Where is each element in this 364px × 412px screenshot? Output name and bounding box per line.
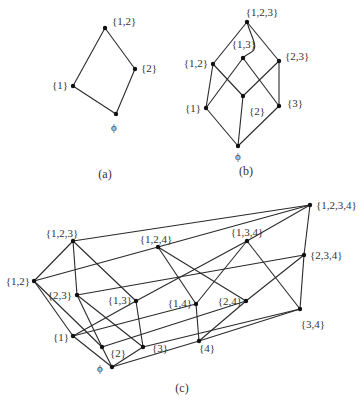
edge-2-to-empty bbox=[116, 69, 135, 114]
node-label-4: {4} bbox=[199, 342, 215, 354]
edge-1-to-empty bbox=[206, 108, 238, 146]
node-label-1-2-3-4: {1,2,3,4} bbox=[316, 199, 357, 211]
node-1-2 bbox=[32, 279, 36, 283]
edge-1-2-4-to-1-2 bbox=[34, 247, 158, 281]
node-label-2-3: {2,3} bbox=[48, 289, 72, 301]
edge-1-2-3-to-1-3 bbox=[73, 241, 136, 301]
node-label-1-2: {1,2} bbox=[112, 15, 136, 27]
node-1-3 bbox=[134, 299, 138, 303]
node-label-2-3-4: {2,3,4} bbox=[310, 249, 343, 261]
node-label-2: {2} bbox=[141, 62, 157, 74]
diagram-c-power-set-4: {1,2,3,4}{1,2,3}{1,2,4}{1,3,4}{2,3,4}{1,… bbox=[6, 199, 357, 395]
node-2-3 bbox=[277, 59, 281, 63]
node-label-1: {1} bbox=[53, 331, 69, 343]
node-2-3-4 bbox=[302, 253, 306, 257]
node-2 bbox=[241, 94, 245, 98]
edge-1-4-to-4 bbox=[196, 304, 199, 341]
edge-1-2-to-1 bbox=[206, 64, 213, 108]
node-1-3 bbox=[241, 56, 245, 60]
edge-2-3-4-to-2-4 bbox=[246, 255, 304, 301]
node-label-1-2-4: {1,2,4} bbox=[140, 233, 173, 245]
node-1 bbox=[204, 106, 208, 110]
edge-2-3-to-2 bbox=[243, 61, 279, 96]
node-label-1-2: {1,2} bbox=[6, 275, 30, 287]
node-2-3 bbox=[75, 293, 79, 297]
caption-c: (c) bbox=[175, 381, 188, 395]
node-label-2: {2} bbox=[110, 347, 126, 359]
node-label-3: {3} bbox=[152, 342, 168, 354]
edge-1-2-to-2 bbox=[105, 28, 135, 69]
node-label-1-4: {1,4} bbox=[168, 297, 192, 309]
node-label-3-4: {3,4} bbox=[301, 318, 325, 330]
node-empty bbox=[110, 365, 114, 369]
node-2-4 bbox=[244, 299, 248, 303]
edge-2-3-4-to-3-4 bbox=[300, 255, 304, 309]
edge-1-3-4-to-3-4 bbox=[247, 241, 300, 309]
node-3 bbox=[277, 104, 281, 108]
node-label-1-3: {1,3} bbox=[108, 294, 132, 306]
node-1-2 bbox=[103, 26, 107, 30]
node-label-1: {1} bbox=[52, 79, 68, 91]
node-empty bbox=[236, 144, 240, 148]
edge-1-2-3-4-to-2-3-4 bbox=[304, 205, 310, 255]
node-label-empty: ϕ bbox=[97, 362, 103, 374]
node-label-2-3: {2,3} bbox=[285, 50, 309, 62]
node-label-1-3: {1,3} bbox=[232, 38, 256, 50]
node-3-4 bbox=[298, 307, 302, 311]
node-1 bbox=[71, 84, 75, 88]
edge-2-to-empty bbox=[238, 96, 243, 146]
edge-2-3-4-to-2-3 bbox=[77, 255, 304, 295]
node-3 bbox=[141, 345, 145, 349]
edge-1-2-to-1 bbox=[73, 28, 105, 86]
node-1-4 bbox=[194, 302, 198, 306]
hasse-diagram-canvas: {1,2}{2}{1}ϕ(a) {1,2,3}{1,3}{1,2}{2,3}{2… bbox=[0, 0, 364, 412]
node-label-empty: ϕ bbox=[111, 121, 117, 133]
node-1-3-4 bbox=[245, 239, 249, 243]
node-label-2-4: {2,4} bbox=[218, 295, 242, 307]
diagram-a-power-set-2: {1,2}{2}{1}ϕ(a) bbox=[52, 15, 157, 181]
edge-1-2-4-to-2-4 bbox=[158, 247, 246, 301]
node-label-2: {2} bbox=[249, 105, 265, 117]
edge-3-4-to-4 bbox=[199, 309, 300, 341]
node-label-3: {3} bbox=[287, 97, 303, 109]
node-label-1: {1} bbox=[185, 102, 201, 114]
node-label-1-3-4: {1,3,4} bbox=[231, 226, 264, 238]
node-label-1-2: {1,2} bbox=[184, 57, 208, 69]
node-label-1-2-3: {1,2,3} bbox=[46, 227, 79, 239]
node-1-2 bbox=[211, 62, 215, 66]
node-label-empty: ϕ bbox=[235, 150, 241, 162]
node-2 bbox=[100, 345, 104, 349]
node-empty bbox=[114, 112, 118, 116]
node-1-2-3-4 bbox=[308, 203, 312, 207]
edge-2-4-to-4 bbox=[199, 301, 246, 341]
node-1-2-4 bbox=[156, 245, 160, 249]
node-1 bbox=[71, 334, 75, 338]
caption-b: (b) bbox=[239, 164, 253, 178]
edge-1-2-3-to-1-2 bbox=[34, 241, 73, 281]
node-label-1-2-3: {1,2,3} bbox=[246, 6, 279, 18]
edge-1-2-to-2 bbox=[213, 64, 243, 96]
edge-1-to-empty bbox=[73, 86, 116, 114]
edge-1-3-to-3 bbox=[243, 58, 279, 106]
node-2 bbox=[133, 67, 137, 71]
edge-1-2-3-to-2-3 bbox=[73, 241, 77, 295]
edge-1-3-to-3 bbox=[136, 301, 143, 347]
node-1-2-3 bbox=[245, 20, 249, 24]
edge-1-to-empty bbox=[73, 336, 112, 367]
diagram-b-power-set-3: {1,2,3}{1,3}{1,2}{2,3}{2}{1}{3}ϕ(b) bbox=[184, 6, 310, 178]
edge-2-3-to-2 bbox=[77, 295, 102, 347]
node-1-2-3 bbox=[71, 239, 75, 243]
edge-1-2-3-4-to-1-2-3 bbox=[73, 205, 310, 241]
caption-a: (a) bbox=[98, 167, 111, 181]
